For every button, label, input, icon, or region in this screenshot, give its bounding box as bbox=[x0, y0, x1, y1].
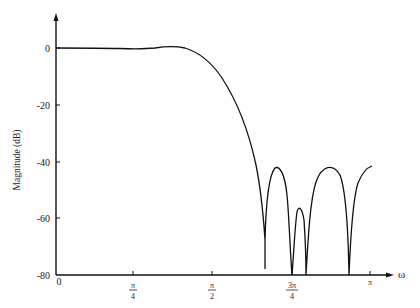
y-tick-label: -80 bbox=[37, 270, 50, 281]
x-axis-title: ω bbox=[398, 268, 405, 280]
x-tick-label: π bbox=[368, 278, 372, 287]
y-tick-label: -60 bbox=[37, 213, 50, 224]
y-tick-label: -40 bbox=[37, 157, 50, 168]
y-axis-arrow-icon bbox=[54, 13, 59, 21]
y-axis-title: Magnitude (dB) bbox=[12, 130, 23, 191]
y-tick-label: 0 bbox=[45, 43, 50, 54]
x-tick-label-den: 4 bbox=[290, 292, 294, 301]
x-tick-label-den: 4 bbox=[131, 292, 135, 301]
chart: 0 -20 -40 -60 -80 Magnitude (dB) 0 π 4 π… bbox=[0, 0, 420, 308]
x-tick-label: 0 bbox=[57, 276, 62, 287]
x-tick-label-num: π bbox=[210, 281, 214, 290]
y-tick-label: -20 bbox=[37, 100, 50, 111]
x-tick-label-num: π bbox=[131, 281, 135, 290]
x-tick-label-num: 3π bbox=[288, 281, 296, 290]
x-axis-arrow-icon bbox=[386, 273, 394, 278]
magnitude-curve bbox=[56, 47, 372, 275]
x-tick-label-den: 2 bbox=[210, 292, 214, 301]
